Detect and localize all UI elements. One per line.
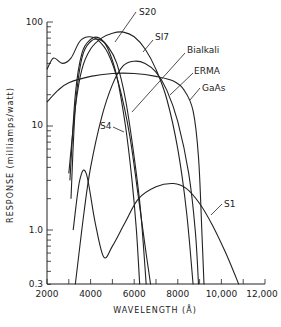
label-bialkali: Bialkali — [187, 45, 219, 55]
x-tick-label-2000: 2000 — [36, 289, 59, 299]
label-gaas: GaAs — [202, 83, 226, 93]
x-axis-ticks — [47, 279, 265, 284]
spectral-response-chart: 100 10 1.0 0.3 2000 4000 6000 8000 10,00… — [0, 0, 281, 327]
label-s20: S20 — [139, 7, 156, 17]
curve-bialkali — [71, 39, 146, 285]
s4-leader — [113, 127, 124, 132]
x-tick-label-4000: 4000 — [79, 289, 102, 299]
gaas-leader — [190, 88, 200, 100]
y-tick-label-100: 100 — [26, 17, 43, 27]
x-tick-label-6000: 6000 — [123, 289, 146, 299]
curve-s1 — [73, 170, 239, 284]
y-axis-ticks — [47, 22, 53, 284]
curve-s20 — [69, 32, 193, 285]
y-axis-title: RESPONSE (milliamps/watt) — [6, 87, 15, 223]
x-tick-label-10000: 10,000 — [206, 289, 238, 299]
x-axis-title: WAVELENGTH (Å) — [113, 304, 197, 315]
y-tick-label-1: 1.0 — [29, 225, 44, 235]
s20-leader — [115, 12, 136, 42]
curve-erma — [75, 61, 198, 284]
s1-leader — [211, 204, 222, 215]
label-s1: S1 — [224, 199, 235, 209]
label-s4: S4 — [100, 121, 112, 131]
x-tick-label-8000: 8000 — [166, 289, 189, 299]
s17-leader — [143, 40, 153, 52]
y-tick-label-0-3: 0.3 — [29, 279, 43, 289]
label-erma: ERMA — [194, 66, 221, 76]
y-tick-label-10: 10 — [32, 120, 44, 130]
x-tick-label-12000: 12,000 — [246, 289, 278, 299]
erma-leader — [170, 73, 193, 95]
label-s17: SI7 — [155, 32, 169, 42]
